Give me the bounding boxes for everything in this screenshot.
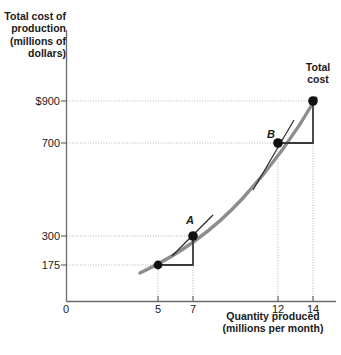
data-point-5-175 xyxy=(154,261,163,270)
data-point-b xyxy=(273,138,283,148)
tangent-line-at-b xyxy=(253,120,294,190)
data-point-a xyxy=(188,231,198,241)
total-cost-curve xyxy=(140,98,316,273)
data-point-14-900 xyxy=(308,96,318,106)
slope-triangle-b xyxy=(278,101,313,143)
total-cost-chart: Total cost of production (millions of do… xyxy=(0,0,341,355)
plot-area xyxy=(0,0,341,355)
